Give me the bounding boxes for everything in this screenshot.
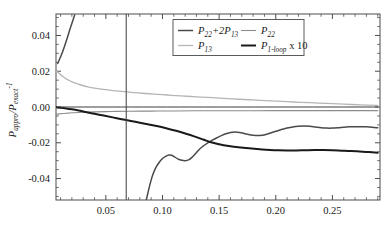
y-tick-label: 0.04: [32, 30, 51, 41]
x-tick-label: 0.15: [210, 205, 228, 216]
y-tick-label: 0.02: [32, 66, 50, 77]
y-tick-label: -0.04: [28, 173, 51, 184]
chart-figure: 0.050.100.150.200.25-0.04-0.020.000.020.…: [0, 0, 392, 234]
x-tick-label: 0.20: [267, 205, 285, 216]
x-tick-label: 0.25: [323, 205, 341, 216]
chart-legend: P22+2P13P22P13P1-loop x 10: [173, 20, 308, 56]
plot-canvas: 0.050.100.150.200.25-0.04-0.020.000.020.…: [0, 0, 392, 234]
y-tick-label: -0.02: [28, 137, 50, 148]
y-tick-label: 0.00: [32, 102, 50, 113]
x-tick-label: 0.10: [153, 205, 171, 216]
x-tick-label: 0.05: [97, 205, 115, 216]
